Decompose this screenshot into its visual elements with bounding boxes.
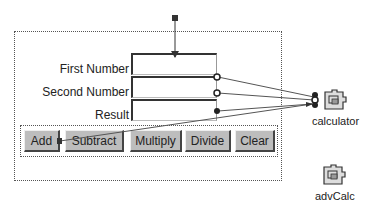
divide-button[interactable]: Divide: [185, 130, 231, 152]
first-number-label: First Number: [19, 62, 129, 76]
clear-button[interactable]: Clear: [235, 130, 275, 152]
add-button[interactable]: Add: [24, 130, 60, 152]
puzzle-bean-icon: [322, 163, 348, 187]
first-number-field[interactable]: [131, 53, 217, 75]
anchor-handle-icon: [172, 15, 178, 21]
result-label: Result: [19, 108, 129, 122]
result-field[interactable]: [131, 99, 217, 121]
builder-canvas[interactable]: First Number Second Number Result Add Su…: [0, 0, 369, 213]
second-number-field[interactable]: [131, 76, 217, 98]
button-panel[interactable]: Add Subtract Multiply Divide Clear: [20, 125, 278, 157]
bean-label: advCalc: [315, 190, 355, 202]
puzzle-bean-icon: [323, 88, 349, 112]
bean-label: calculator: [312, 115, 359, 127]
subtract-button[interactable]: Subtract: [65, 130, 124, 152]
second-number-label: Second Number: [19, 85, 129, 99]
multiply-button[interactable]: Multiply: [130, 130, 182, 152]
advcalc-bean[interactable]: advCalc: [315, 163, 355, 202]
calculator-bean[interactable]: calculator: [312, 88, 359, 127]
